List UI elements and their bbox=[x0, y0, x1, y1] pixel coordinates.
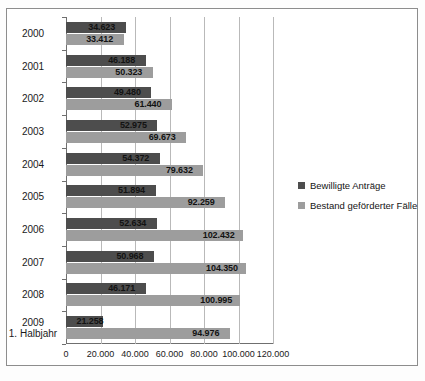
y-axis-tick bbox=[62, 17, 66, 18]
bar-value-label: 34.623 bbox=[80, 22, 124, 33]
y-axis-label-2009: 2009 1. Halbjahr bbox=[4, 317, 62, 339]
x-axis-tick-labels: 020.00040.00060.00080.000100.000120.000 bbox=[0, 348, 425, 362]
y-axis-category-labels: 2000200120022003200420052006200720082009… bbox=[0, 17, 62, 344]
bar-value-label: 33.412 bbox=[78, 34, 122, 45]
bar-value-label: 54.372 bbox=[114, 153, 158, 164]
legend-swatch-icon bbox=[298, 182, 305, 189]
y-axis-label-2006: 2006 bbox=[4, 224, 62, 235]
y-axis-tick bbox=[62, 246, 66, 247]
bar-value-label: 50.323 bbox=[107, 67, 151, 78]
bar-value-label: 69.673 bbox=[140, 132, 184, 143]
x-tick-label: 20.000 bbox=[87, 348, 115, 360]
x-tick-label: 0 bbox=[63, 348, 68, 360]
y-axis-label-2002: 2002 bbox=[4, 93, 62, 104]
y-axis-label-2008: 2008 bbox=[4, 289, 62, 300]
bar-value-label: 52.975 bbox=[111, 120, 155, 131]
y-axis-tick bbox=[62, 279, 66, 280]
bar-value-label: 79.632 bbox=[157, 165, 201, 176]
y-axis-label-2007: 2007 bbox=[4, 257, 62, 268]
x-tick-label: 100.000 bbox=[222, 348, 255, 360]
bar-value-label: 104.350 bbox=[200, 263, 244, 274]
legend-item-1[interactable]: Bestand geförderter Fälle bbox=[298, 200, 418, 211]
y-axis-tick bbox=[62, 344, 66, 345]
bar-value-label: 92.259 bbox=[179, 197, 223, 208]
x-tick-label: 120.000 bbox=[257, 348, 290, 360]
y-axis-tick bbox=[62, 115, 66, 116]
y-axis-label-2003: 2003 bbox=[4, 126, 62, 137]
bar-value-label: 100.995 bbox=[194, 295, 238, 306]
gridline bbox=[273, 17, 274, 344]
bar-value-label: 102.432 bbox=[197, 230, 241, 241]
y-axis-tick bbox=[62, 181, 66, 182]
y-axis-label-2001: 2001 bbox=[4, 61, 62, 72]
plot-area: 34.62333.41246.18850.32349.48061.44052.9… bbox=[66, 17, 273, 344]
y-axis-label-2000: 2000 bbox=[4, 28, 62, 39]
y-axis-label-2005: 2005 bbox=[4, 191, 62, 202]
legend-label: Bewilligte Anträge bbox=[310, 180, 386, 191]
x-tick-label: 80.000 bbox=[190, 348, 218, 360]
bar-chart: 2000200120022003200420052006200720082009… bbox=[0, 0, 425, 381]
y-axis-tick bbox=[62, 148, 66, 149]
bar-value-label: 21.258 bbox=[68, 316, 112, 327]
bar-value-label: 94.976 bbox=[184, 328, 228, 339]
y-axis-label-2004: 2004 bbox=[4, 159, 62, 170]
bar-value-label: 52.634 bbox=[111, 218, 155, 229]
bar-value-label: 51.894 bbox=[110, 185, 154, 196]
y-axis-tick bbox=[62, 82, 66, 83]
x-tick-label: 60.000 bbox=[156, 348, 184, 360]
x-tick-label: 40.000 bbox=[121, 348, 149, 360]
y-axis-tick bbox=[62, 213, 66, 214]
y-axis-tick bbox=[62, 50, 66, 51]
bar-value-label: 50.968 bbox=[108, 251, 152, 262]
legend-item-0[interactable]: Bewilligte Anträge bbox=[298, 180, 418, 191]
legend-swatch-icon bbox=[298, 202, 305, 209]
bar-value-label: 49.480 bbox=[105, 87, 149, 98]
legend-label: Bestand geförderter Fälle bbox=[310, 200, 417, 211]
y-axis-tick bbox=[62, 311, 66, 312]
bar-value-label: 46.171 bbox=[100, 283, 144, 294]
bar-value-label: 46.188 bbox=[100, 55, 144, 66]
chart-legend: Bewilligte AnträgeBestand geförderter Fä… bbox=[298, 180, 418, 220]
bar-value-label: 61.440 bbox=[126, 99, 170, 110]
